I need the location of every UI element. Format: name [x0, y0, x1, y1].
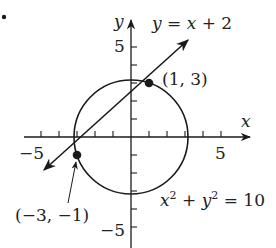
y-axis-label: y [113, 11, 124, 31]
x-axis [24, 131, 250, 137]
point-label-1-3: (1, 3) [162, 69, 208, 89]
circle-equation-label: x2 + y2 = 10 [160, 189, 265, 210]
intersection-point-neg3-neg1 [73, 151, 82, 160]
point-label-neg3-neg1: (−3, −1) [15, 205, 89, 225]
bullet-dot [2, 15, 6, 19]
y-axis [131, 20, 137, 248]
x-axis-label: x [241, 111, 251, 131]
x-tick-label-neg5: −5 [19, 143, 44, 163]
line-equation-label: y = x + 2 [151, 13, 232, 33]
y-tick-label-neg5: −5 [100, 220, 125, 240]
label-pointer-arrow [68, 162, 76, 203]
line-y-equals-x-plus-2 [44, 40, 188, 170]
x-tick-label-5: 5 [215, 143, 226, 163]
y-tick-label-5: 5 [114, 36, 125, 56]
intersection-point-1-3 [145, 79, 154, 88]
intersection-diagram: y x 5 −5 −5 5 y = x + 2 (1, 3) (−3, −1) … [0, 0, 276, 248]
